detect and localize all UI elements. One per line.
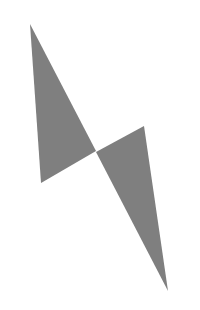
upper-triangle [30,24,96,183]
lower-triangle [96,126,168,291]
lightning-bolt-figure [0,0,200,310]
